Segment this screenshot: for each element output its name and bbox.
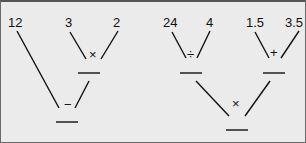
edge-3.5-to-plus (281, 31, 299, 58)
leaf-3: 3 (65, 15, 72, 30)
operator-minus: − (64, 97, 72, 112)
edge-1.5-to-plus (255, 32, 269, 58)
edge-divide-to-times (196, 81, 229, 116)
operator-times-root: × (232, 96, 240, 111)
leaf-24: 24 (163, 15, 177, 30)
operator-divide: ÷ (187, 47, 194, 62)
diagram-frame: 12 3 2 × − 24 4 ÷ 1.5 3.5 + × (0, 0, 306, 143)
leaf-3.5: 3.5 (285, 15, 303, 30)
edge-3-to-times (70, 32, 86, 59)
operator-plus: + (270, 45, 278, 60)
expression-tree-diagram: 12 3 2 × − 24 4 ÷ 1.5 3.5 + × (1, 2, 306, 143)
operator-times: × (89, 47, 97, 62)
edge-plus-to-times (245, 81, 270, 116)
leaf-4: 4 (206, 15, 213, 30)
leaf-2: 2 (113, 15, 120, 30)
edge-4-to-divide (197, 31, 210, 58)
edge-times-to-minus (75, 81, 89, 108)
edge-2-to-times (101, 31, 118, 59)
leaf-1.5: 1.5 (246, 15, 264, 30)
edge-12-to-minus (17, 31, 59, 108)
leaf-12: 12 (8, 15, 22, 30)
edge-24-to-divide (172, 32, 186, 58)
